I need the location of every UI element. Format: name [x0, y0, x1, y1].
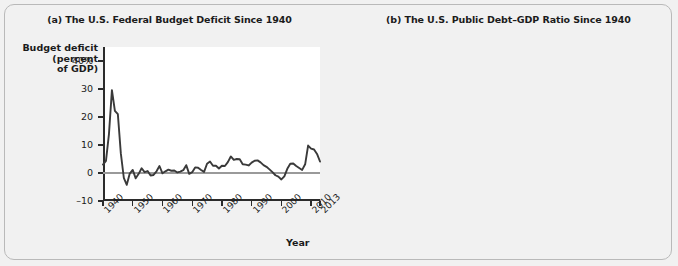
y-tick-label: 40%: [33, 55, 93, 66]
panel-a-title: (a) The U.S. Federal Budget Deficit Sinc…: [0, 14, 339, 25]
chart-panel-a: (a) The U.S. Federal Budget Deficit Sinc…: [0, 0, 339, 266]
y-tick-label: 10: [33, 139, 93, 150]
y-tick-label: 30: [33, 83, 93, 94]
panel-b-title: (b) The U.S. Public Debt–GDP Ratio Since…: [339, 14, 678, 25]
chart-panel-b: (b) The U.S. Public Debt–GDP Ratio Since…: [339, 0, 678, 266]
panel-a-plot-area: 40%3020100–10 19401950196019701980199020…: [103, 47, 320, 201]
y-tick-label: –10: [33, 195, 93, 206]
y-tick-label: 0: [33, 167, 93, 178]
y-tick-label: 20: [33, 111, 93, 122]
panel-a-x-axis-title: Year: [286, 237, 310, 248]
panel-a-data-line: [103, 47, 320, 201]
